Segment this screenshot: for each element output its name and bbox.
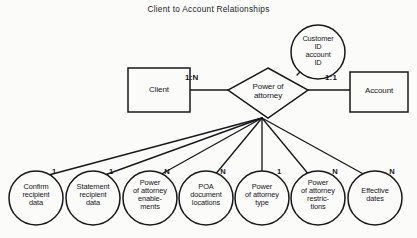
attribute-label-power-of-attorney-enablements: Power of attorney enable- ments bbox=[123, 179, 177, 212]
edge-to-power-of-attorney-restrictions bbox=[262, 118, 310, 176]
cardinality-statement-recipient-data: 1 bbox=[105, 168, 117, 176]
edge-to-power-of-attorney-enablements bbox=[158, 118, 262, 176]
attribute-label-effective-dates: Effective dates bbox=[348, 187, 402, 203]
cardinality-confirm-recipient-data: 1 bbox=[48, 168, 60, 176]
cardinality-power-of-attorney-type: 1 bbox=[273, 168, 285, 176]
attribute-label-statement-recipient-data: Statement recipient data bbox=[66, 183, 120, 207]
attribute-label-confirm-recipient-data: Confirm recipient data bbox=[9, 183, 63, 207]
cardinality-client-relationship: 1:N bbox=[185, 74, 225, 82]
attribute-label-poa-document-locations: POA document locations bbox=[179, 183, 233, 207]
entity-label-account: Account bbox=[350, 87, 408, 95]
cardinality-relationship-account: 1:1 bbox=[311, 74, 351, 82]
cardinality-poa-document-locations: N bbox=[217, 168, 229, 176]
attribute-label-power-of-attorney-restrictions: Power of attorney restric- tions bbox=[291, 179, 345, 212]
cardinality-power-of-attorney-enablements: N bbox=[161, 168, 173, 176]
page-caption-fragment bbox=[6, 231, 306, 238]
cardinality-power-of-attorney-restrictions: N bbox=[329, 168, 341, 176]
attribute-label-power-of-attorney-type: Power of attorney type bbox=[235, 183, 289, 207]
entity-label-client: Client bbox=[128, 86, 190, 94]
relationship-label-power-of-attorney: Power of attorney bbox=[228, 83, 308, 101]
cardinality-effective-dates: N bbox=[386, 168, 398, 176]
edge-to-confirm-recipient-data bbox=[45, 118, 262, 176]
identifier-label-customer-id: Customer ID account ID bbox=[291, 35, 345, 67]
diagram-canvas: Client to Account Relationships bbox=[0, 0, 417, 238]
